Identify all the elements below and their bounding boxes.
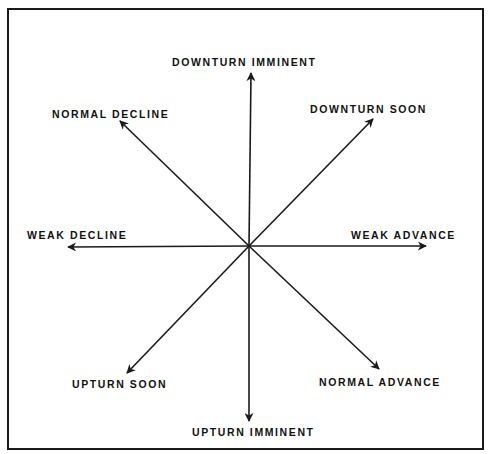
- label-normal-decline: NORMAL DECLINE: [52, 109, 169, 120]
- label-upturn-soon: UPTURN SOON: [72, 379, 167, 390]
- label-normal-advance: NORMAL ADVANCE: [319, 377, 441, 388]
- label-downturn-soon: DOWNTURN SOON: [310, 104, 427, 115]
- arrow-nw: [120, 121, 249, 246]
- arrow-ne: [249, 119, 373, 246]
- arrow-w: [68, 246, 249, 247]
- label-downturn-imminent: DOWNTURN IMMINENT: [172, 57, 316, 68]
- label-upturn-imminent: UPTURN IMMINENT: [192, 427, 315, 438]
- arrow-se: [249, 246, 379, 369]
- arrow-n: [249, 73, 251, 246]
- arrow-sw: [127, 246, 249, 373]
- label-weak-advance: WEAK ADVANCE: [351, 230, 456, 241]
- label-weak-decline: WEAK DECLINE: [27, 230, 127, 241]
